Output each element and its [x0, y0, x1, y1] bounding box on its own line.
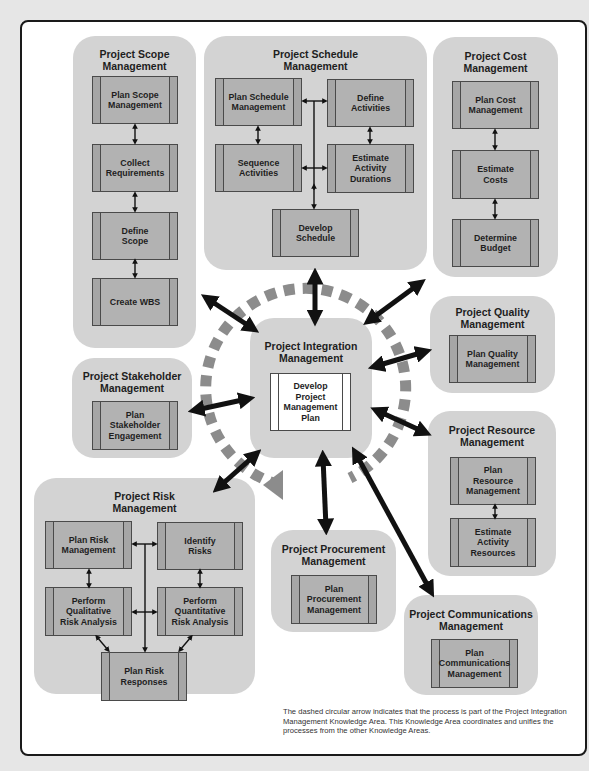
- area-integration: Project Integration Management Develop P…: [250, 318, 372, 458]
- process-estimate-activity-resources: Estimate Activity Resources: [450, 518, 536, 567]
- area-title: Project Resource Management: [428, 424, 556, 448]
- area-title: Project Integration Management: [250, 340, 372, 364]
- area-title: Project Stakeholder Management: [72, 370, 192, 394]
- process-plan-communications-management: Plan Communications Management: [431, 639, 518, 688]
- area-resource: Project Resource Management Plan Resourc…: [428, 411, 556, 576]
- area-risk: Project Risk Management Plan Risk Manage…: [34, 478, 255, 694]
- area-stakeholder: Project Stakeholder Management Plan Stak…: [72, 358, 192, 458]
- process-plan-risk-responses: Plan Risk Responses: [101, 652, 187, 701]
- process-collect-requirements: Collect Requirements: [92, 144, 178, 192]
- process-identify-risks: Identify Risks: [157, 522, 243, 570]
- area-quality: Project Quality Management Plan Quality …: [430, 296, 555, 393]
- area-title: Project Risk Management: [34, 490, 255, 514]
- process-plan-cost-management: Plan Cost Management: [452, 81, 539, 129]
- area-schedule: Project Schedule Management Plan Schedul…: [204, 36, 427, 270]
- area-procurement: Project Procurement Management Plan Proc…: [271, 530, 396, 632]
- process-perform-quantitative-risk-analysis: Perform Quantitative Risk Analysis: [157, 587, 243, 636]
- area-communications: Project Communications Management Plan C…: [404, 595, 538, 695]
- process-create-wbs: Create WBS: [92, 278, 178, 326]
- process-plan-risk-management: Plan Risk Management: [45, 521, 132, 569]
- area-title: Project Scope Management: [73, 48, 196, 72]
- process-define-scope: Define Scope: [92, 212, 178, 260]
- process-plan-quality-management: Plan Quality Management: [449, 335, 536, 383]
- area-title: Project Quality Management: [430, 306, 555, 330]
- process-plan-scope-management: Plan Scope Management: [92, 76, 178, 124]
- area-title: Project Cost Management: [433, 50, 558, 74]
- process-plan-resource-management: Plan Resource Management: [450, 457, 536, 505]
- process-define-activities: Define Activities: [327, 79, 414, 127]
- process-estimate-activity-durations: Estimate Activity Durations: [327, 144, 414, 193]
- process-sequence-activities: Sequence Activities: [215, 144, 302, 192]
- area-title: Project Communications Management: [404, 608, 538, 632]
- area-title: Project Schedule Management: [204, 48, 427, 72]
- process-develop-project-management-plan: Develop Project Management Plan: [270, 373, 351, 431]
- process-estimate-costs: Estimate Costs: [452, 150, 539, 199]
- area-scope: Project Scope Management Plan Scope Mana…: [73, 36, 196, 348]
- process-plan-schedule-management: Plan Schedule Management: [215, 78, 302, 126]
- process-determine-budget: Determine Budget: [452, 219, 539, 267]
- area-cost: Project Cost Management Plan Cost Manage…: [433, 37, 558, 277]
- area-title: Project Procurement Management: [271, 543, 396, 567]
- process-plan-procurement-management: Plan Procurement Management: [291, 575, 377, 624]
- process-perform-qualitative-risk-analysis: Perform Qualitative Risk Analysis: [45, 587, 132, 636]
- footnote: The dashed circular arrow indicates that…: [283, 707, 573, 736]
- process-develop-schedule: Develop Schedule: [272, 209, 359, 257]
- process-plan-stakeholder-engagement: Plan Stakeholder Engagement: [92, 401, 178, 450]
